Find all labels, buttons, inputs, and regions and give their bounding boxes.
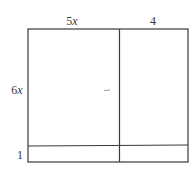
side-label-top: 6x — [11, 83, 23, 97]
top-label-right: 4 — [150, 14, 156, 28]
area-model-diagram: 5x 4 6x 1 — [0, 0, 192, 172]
side-label-bottom: 1 — [17, 148, 23, 162]
top-label-left: 5x — [66, 14, 78, 28]
horizontal-divider — [28, 145, 188, 146]
outer-rectangle — [28, 29, 188, 162]
stray-mark — [104, 90, 110, 91]
